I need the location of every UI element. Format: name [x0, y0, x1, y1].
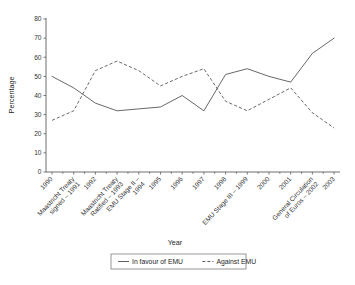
x-tick-label-line: 1996 — [169, 175, 184, 191]
x-axis — [46, 172, 340, 175]
x-axis-title: Year — [168, 238, 183, 247]
x-tick-label-line: 2003 — [321, 175, 336, 191]
x-tick-label: 1995 — [147, 175, 162, 191]
y-tick-label: 50 — [34, 73, 42, 80]
x-tick-label: 1992 — [82, 175, 97, 191]
y-tick-label: 10 — [34, 149, 42, 156]
x-tick-label-line: 1998 — [212, 175, 227, 191]
x-tick-label: 1998 — [212, 175, 227, 191]
x-tick-label: 2003 — [321, 175, 336, 191]
x-tick-label: 1997 — [191, 175, 206, 191]
x-tick-labels: 1990Maastricht Treatysigned – 19911992Ma… — [36, 175, 336, 227]
x-tick-label: 1996 — [169, 175, 184, 191]
y-tick-label: 70 — [34, 34, 42, 41]
y-axis-title: Percentage — [7, 77, 16, 114]
line-chart: 01020304050607080 1990Maastricht Treatys… — [0, 0, 355, 285]
x-tick-label-line: 2001 — [277, 175, 292, 191]
x-tick-label: 1990 — [39, 175, 54, 191]
y-tick-label: 20 — [34, 130, 42, 137]
chart-legend: In favour of EMUAgainst EMU — [111, 254, 256, 269]
x-tick-label-line: 1992 — [82, 175, 97, 191]
legend-label: Against EMU — [216, 258, 256, 266]
x-tick-label-line: General Circulation — [271, 175, 315, 221]
y-tick-label: 30 — [34, 111, 42, 118]
series-line-1 — [52, 38, 334, 111]
x-tick-label-line: EMU Stage III – 1999 — [201, 175, 250, 227]
chart-figure: 01020304050607080 1990Maastricht Treatys… — [0, 0, 355, 285]
y-tick-label: 0 — [38, 168, 42, 175]
legend-label: In favour of EMU — [132, 258, 183, 265]
y-axis: 01020304050607080 — [34, 15, 46, 175]
y-tick-label: 80 — [34, 15, 42, 22]
x-tick-label: 2001 — [277, 175, 292, 191]
y-tick-label: 40 — [34, 92, 42, 99]
x-tick-label-line: 1997 — [191, 175, 206, 191]
x-tick-label: 2000 — [256, 175, 271, 191]
x-tick-label: EMU Stage III – 1999 — [201, 175, 250, 227]
y-tick-label: 60 — [34, 54, 42, 61]
series-line-2 — [52, 61, 334, 128]
x-tick-label-line: 1995 — [147, 175, 162, 191]
x-tick-label-line: 1990 — [39, 175, 54, 191]
series-lines — [52, 38, 334, 128]
x-tick-label: General Circulationof Euros – 2002 — [271, 175, 320, 226]
x-tick-label-line: 2000 — [256, 175, 271, 191]
